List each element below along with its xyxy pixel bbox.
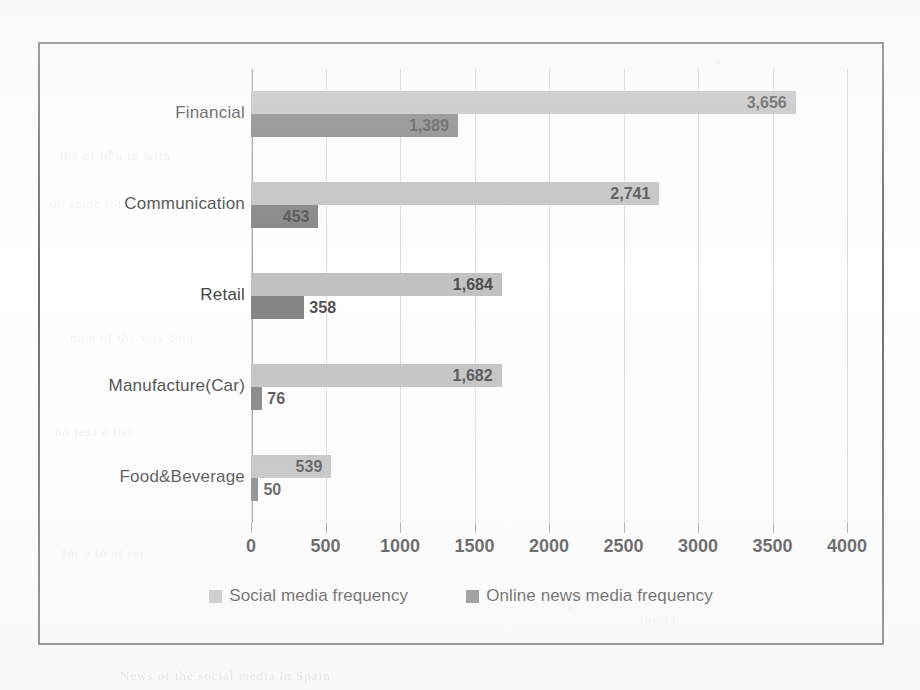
x-axis-tick-mark: [400, 523, 401, 533]
x-axis-tick-mark: [698, 523, 699, 533]
x-axis-tick-mark: [475, 523, 476, 533]
bar-group: 1,68276: [251, 364, 847, 410]
x-axis-tick-mark: [251, 523, 252, 533]
bar-value-label: 50: [258, 478, 281, 501]
x-axis-tick-label: 1000: [380, 536, 420, 557]
bar-social[interactable]: [251, 91, 796, 114]
x-axis-tick-row: [251, 523, 847, 535]
bar-value-label: 1,389: [409, 114, 458, 137]
bar-group: 1,684358: [251, 273, 847, 319]
bar-group: 2,741453: [251, 182, 847, 228]
category-label: Food&Beverage: [120, 467, 245, 487]
category-label: Manufacture(Car): [109, 376, 245, 396]
x-axis-tick-label: 2500: [603, 536, 643, 557]
bar-value-label: 3,656: [747, 91, 796, 114]
bar-value-label: 453: [283, 205, 319, 228]
bar-row: 1,389: [251, 114, 847, 137]
x-axis-tick-mark: [847, 523, 848, 533]
legend-label: Online news media frequency: [486, 586, 713, 606]
x-axis-tick-mark: [549, 523, 550, 533]
bar-value-label: 358: [304, 296, 336, 319]
category-label: Retail: [200, 285, 245, 305]
x-axis-tick-mark: [773, 523, 774, 533]
bar-news[interactable]: [251, 478, 258, 501]
bar-group: 53950: [251, 455, 847, 501]
x-axis-tick-label: 3000: [678, 536, 718, 557]
bar-news[interactable]: [251, 387, 262, 410]
x-axis-tick-label: 0: [246, 536, 256, 557]
bar-value-label: 76: [262, 387, 285, 410]
bar-value-label: 2,741: [610, 182, 659, 205]
social-legend-swatch: [209, 590, 222, 603]
x-axis-tick-mark: [624, 523, 625, 533]
category-label: Financial: [175, 103, 245, 123]
x-axis-tick-label: 3500: [752, 536, 792, 557]
bar-row: 1,684: [251, 273, 847, 296]
x-axis-tick-label: 4000: [827, 536, 867, 557]
news-legend-swatch: [466, 590, 479, 603]
bar-value-label: 1,682: [453, 364, 502, 387]
legend-item[interactable]: Online news media frequency: [466, 586, 713, 606]
bar-value-label: 1,684: [453, 273, 502, 296]
bar-news[interactable]: [251, 296, 304, 319]
x-axis-tick-label: 1500: [454, 536, 494, 557]
bar-row: 76: [251, 387, 847, 410]
chart-frame: FinancialCommunicationRetailManufacture(…: [38, 42, 884, 645]
bar-value-label: 539: [296, 455, 332, 478]
category-label-column: FinancialCommunicationRetailManufacture(…: [40, 69, 245, 523]
plot-area: 3,6561,3892,7414531,6843581,6827653950: [251, 69, 847, 523]
x-axis-tick-label: 2000: [529, 536, 569, 557]
bar-row: 539: [251, 455, 847, 478]
bar-social[interactable]: [251, 182, 659, 205]
bar-row: 358: [251, 296, 847, 319]
x-axis-tick-mark: [326, 523, 327, 533]
bar-row: 453: [251, 205, 847, 228]
x-axis-tick-labels: 05001000150020002500300035004000: [251, 536, 847, 564]
bar-row: 2,741: [251, 182, 847, 205]
chart-legend: Social media frequencyOnline news media …: [40, 586, 882, 606]
bar-group: 3,6561,389: [251, 91, 847, 137]
legend-label: Social media frequency: [229, 586, 408, 606]
gridline: [847, 69, 848, 523]
scan-bleed-text: News of the social media in Spain: [120, 668, 331, 684]
category-label: Communication: [124, 194, 245, 214]
x-axis-tick-label: 500: [310, 536, 340, 557]
bar-row: 3,656: [251, 91, 847, 114]
legend-item[interactable]: Social media frequency: [209, 586, 408, 606]
bar-row: 50: [251, 478, 847, 501]
bar-row: 1,682: [251, 364, 847, 387]
